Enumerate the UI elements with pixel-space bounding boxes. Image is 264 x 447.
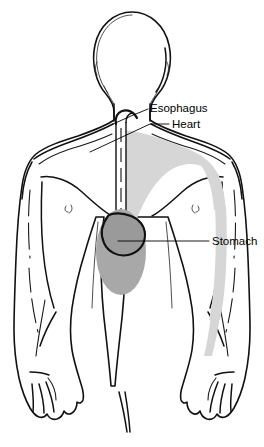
- stomach-referred-region-group: [96, 209, 146, 295]
- esophagus-label: Esophagus: [150, 102, 208, 114]
- stomach-label: Stomach: [212, 235, 257, 247]
- waist-right: [166, 222, 172, 308]
- stomach-organ-outline: [102, 213, 145, 255]
- anatomy-diagram: Esophagus Heart Stomach: [0, 0, 264, 447]
- heart-label: Heart: [172, 118, 201, 130]
- waist-left: [92, 222, 98, 308]
- anatomy-illustration: Esophagus Heart Stomach: [0, 0, 264, 447]
- crotch-notch: [119, 392, 130, 432]
